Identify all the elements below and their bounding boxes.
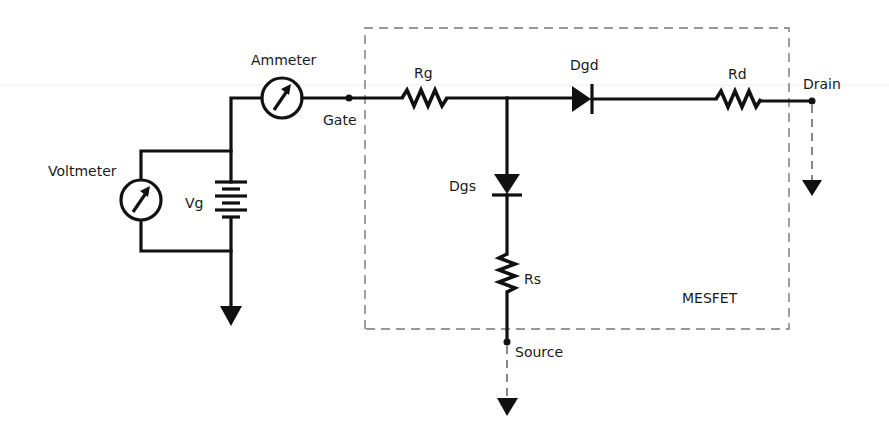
rs-label: Rs xyxy=(524,271,541,287)
voltmeter-label: Voltmeter xyxy=(48,163,117,179)
rd-label: Rd xyxy=(728,66,747,82)
dgs-label: Dgs xyxy=(449,178,476,194)
mesfet-label: MESFET xyxy=(682,290,738,306)
gate-label: Gate xyxy=(323,112,357,128)
ammeter-label: Ammeter xyxy=(251,52,317,68)
source-terminal-dot xyxy=(504,339,511,346)
rg-resistor-icon xyxy=(402,90,447,106)
rg-label: Rg xyxy=(414,65,433,81)
vg-label: Vg xyxy=(185,195,203,211)
rd-resistor-icon xyxy=(716,91,761,107)
ground-icon-source xyxy=(497,398,518,416)
ground-icon-drain xyxy=(802,180,822,196)
dgd-label: Dgd xyxy=(570,57,599,73)
ground-icon-vg xyxy=(220,306,242,326)
dgs-diode-icon xyxy=(492,174,522,195)
dgd-diode-icon xyxy=(572,84,592,114)
circuit-diagram: Ammeter Voltmeter Vg Gate Rg Dgd Rd Drai… xyxy=(0,0,889,445)
gate-terminal-dot xyxy=(346,95,353,102)
rs-resistor-icon xyxy=(499,254,515,292)
voltmeter-icon xyxy=(121,180,161,220)
ammeter-icon xyxy=(262,78,302,118)
drain-label: Drain xyxy=(803,76,841,92)
source-label: Source xyxy=(515,344,563,360)
drain-terminal-dot xyxy=(809,98,816,105)
battery-icon xyxy=(215,182,247,217)
